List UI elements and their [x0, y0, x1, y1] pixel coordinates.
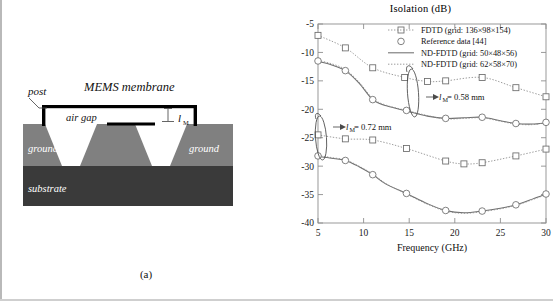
mems-membrane-bar	[42, 105, 197, 108]
series-line	[318, 156, 546, 212]
post-right	[194, 105, 197, 126]
legend-item-1: FDTD (grid: 136×98×154)	[388, 26, 511, 35]
x-tick-label: 30	[541, 228, 551, 238]
data-point-circle	[342, 157, 349, 164]
data-point-square	[479, 160, 485, 166]
label-mems-membrane: MEMS membrane	[83, 80, 175, 94]
annotation-1: lM = 0.58 mm	[406, 66, 485, 118]
data-point-square	[402, 74, 408, 80]
label-lm: l	[178, 112, 181, 124]
legend-item-2: Reference data [44]	[398, 37, 487, 46]
legend-item-3: ND-FDTD (grid: 50×48×56)	[388, 49, 517, 58]
x-tick-label: 20	[450, 228, 460, 238]
chart-legend: FDTD (grid: 136×98×154)Reference data [4…	[388, 26, 517, 69]
series-line	[318, 135, 546, 164]
data-point-circle	[442, 207, 449, 214]
series-line	[318, 155, 546, 213]
y-tick-label: -10	[301, 48, 314, 58]
x-tick-label: 10	[359, 228, 369, 238]
legend-label: ND-FDTD (grid: 50×48×56)	[421, 49, 517, 58]
legend-label: FDTD (grid: 136×98×154)	[421, 26, 511, 35]
data-point-square	[513, 85, 519, 91]
mems-diagram-svg: post MEMS membrane air gap l M ground gr…	[6, 0, 286, 270]
data-point-circle	[315, 58, 322, 65]
annotation-label-rest: = 0.72 mm	[354, 122, 392, 132]
chart-axis-labels: Frequency (GHz)	[397, 242, 467, 254]
x-tick-label: 5	[316, 228, 321, 238]
data-point-circle	[513, 120, 520, 127]
y-tick-label: -5	[306, 19, 314, 29]
data-point-square	[543, 146, 549, 152]
figure-root: post MEMS membrane air gap l M ground gr…	[0, 0, 553, 301]
plot-area-wrapper: -5-10-15-20-25-30-35-4051015202530 lM = …	[288, 16, 553, 266]
data-point-square	[461, 161, 467, 167]
scan-edge-left	[0, 0, 2, 301]
series-line	[318, 62, 546, 125]
data-point-circle	[479, 208, 486, 215]
label-substrate: substrate	[28, 183, 67, 194]
isolation-chart-svg: -5-10-15-20-25-30-35-4051015202530 lM = …	[288, 16, 553, 266]
signal-line-metal	[107, 123, 155, 126]
legend-marker-circle	[398, 38, 405, 45]
data-point-circle	[479, 114, 486, 121]
y-tick-label: -15	[301, 76, 314, 86]
data-point-circle	[513, 202, 520, 209]
data-point-circle	[403, 190, 410, 197]
data-point-square	[315, 32, 321, 38]
data-point-square	[315, 132, 321, 138]
data-point-square	[443, 78, 449, 84]
annotation-label-rest: = 0.58 mm	[447, 92, 485, 102]
chart-title: Isolation (dB)	[288, 3, 553, 14]
panel-a-caption: (a)	[6, 268, 286, 280]
data-point-square	[370, 137, 376, 143]
label-lm-subscript: M	[183, 119, 189, 126]
x-tick-label: 25	[496, 228, 506, 238]
data-point-circle	[543, 119, 550, 126]
data-point-square	[543, 94, 549, 100]
annotation-2: lM = 0.72 mm	[314, 113, 392, 160]
data-point-square	[443, 158, 449, 164]
label-air-gap: air gap	[66, 112, 97, 123]
data-point-square	[479, 74, 485, 80]
data-point-circle	[369, 171, 376, 178]
panel-a-mems-cross-section: post MEMS membrane air gap l M ground gr…	[6, 0, 286, 301]
y-tick-label: -25	[301, 133, 314, 143]
data-point-circle	[342, 67, 349, 74]
label-ground-right: ground	[189, 143, 220, 154]
y-tick-label: -40	[301, 218, 314, 228]
panel-b-isolation-chart: Isolation (dB) -5-10-15-20-25-30-35-4051…	[288, 0, 553, 301]
data-point-circle	[442, 115, 449, 122]
data-point-square	[342, 45, 348, 51]
data-point-square	[513, 153, 519, 159]
data-point-square	[370, 65, 376, 71]
legend-label: ND-FDTD (grid: 62×58×70)	[421, 60, 517, 69]
y-tick-label: -35	[301, 190, 314, 200]
x-tick-label: 15	[404, 228, 414, 238]
y-tick-label: -20	[301, 105, 314, 115]
data-point-square	[424, 78, 430, 84]
series-line	[318, 60, 546, 124]
y-tick-label: -30	[301, 162, 314, 172]
chart-annotations: lM = 0.58 mmlM = 0.72 mm	[314, 66, 485, 161]
data-point-circle	[543, 191, 550, 198]
legend-label: Reference data [44]	[421, 37, 487, 46]
data-point-square	[342, 136, 348, 142]
data-point-circle	[403, 107, 410, 114]
data-point-square	[403, 146, 409, 152]
data-point-circle	[369, 96, 376, 103]
x-axis-label: Frequency (GHz)	[397, 242, 467, 254]
label-post: post	[27, 85, 47, 97]
label-ground-left: ground	[28, 143, 59, 154]
legend-item-4: ND-FDTD (grid: 62×58×70)	[388, 60, 517, 69]
